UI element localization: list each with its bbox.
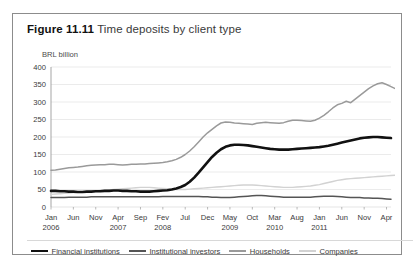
legend-item: Households [229,247,290,256]
line-chart: 400350300250200150100500 [23,61,395,213]
svg-text:400: 400 [33,63,46,72]
x-tick-label: Jan2006 [43,213,60,232]
x-tick-label: May2009 [221,213,238,232]
chart-legend: Financial institutionsInstitutional inve… [31,244,358,258]
legend-swatch [31,250,48,253]
legend-item: Companies [299,247,358,256]
legend-label: Households [250,247,290,256]
legend-item: Financial institutions [31,247,120,256]
x-tick-label: Jul [180,213,190,223]
page-title: Time deposits by client type [97,23,241,35]
x-tick-label: Mar2010 [266,213,283,232]
svg-text:200: 200 [33,133,46,142]
svg-text:100: 100 [33,168,46,177]
x-tick-label: Sep [134,213,148,223]
figure-frame: Figure 11.11 Time deposits by client typ… [12,13,402,255]
x-tick-label: Fev2008 [154,213,171,232]
x-tick-label: Nov [357,213,371,223]
svg-text:0: 0 [42,203,46,212]
plot-area: 400350300250200150100500 [23,61,395,213]
x-tick-label: Oct [246,213,258,223]
svg-text:150: 150 [33,150,46,159]
y-axis-unit-label: BRL billion [42,50,78,59]
svg-text:250: 250 [33,115,46,124]
x-tick-label: Nov [89,213,103,223]
figure-number: Figure 11.11 [27,23,94,35]
legend-swatch [299,250,316,251]
x-tick-label: Apr2007 [110,213,127,232]
x-tick-label: Dec [201,213,215,223]
legend-label: Companies [319,247,357,256]
legend-swatch [229,250,246,252]
figure-caption: Figure 11.11 Time deposits by client typ… [27,23,241,35]
x-tick-label: Apr [381,213,393,223]
legend-label: Institutional investors [149,247,220,256]
svg-text:50: 50 [38,185,46,194]
figure-screenshot: Figure 11.11 Time deposits by client typ… [0,0,414,268]
series-line-institutional-investors [51,195,391,199]
x-axis-tick-labels: Jan2006JunNovApr2007SepFev2008JulDecMay2… [23,213,395,237]
legend-swatch [129,250,146,252]
series-line-households [51,83,395,171]
legend-label: Financial institutions [52,247,120,256]
svg-text:300: 300 [33,98,46,107]
legend-divider [27,240,413,241]
legend-item: Institutional investors [129,247,220,256]
svg-text:350: 350 [33,80,46,89]
x-tick-label: Aug [290,213,304,223]
x-tick-label: Jan2011 [311,213,327,232]
x-tick-label: Jun [67,213,79,223]
x-tick-label: Jun [336,213,348,223]
